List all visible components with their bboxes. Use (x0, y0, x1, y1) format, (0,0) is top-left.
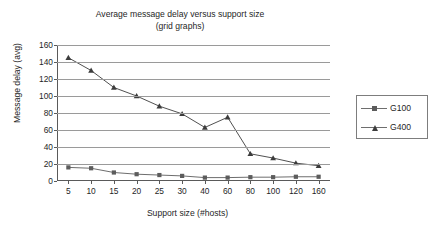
y-tick-mark (54, 79, 57, 80)
x-tick-mark (137, 181, 138, 184)
legend-marker-triangle-icon (361, 122, 387, 132)
legend-label-g100: G100 (390, 103, 411, 113)
x-tick-mark (228, 181, 229, 184)
gridline (57, 147, 330, 148)
y-tick-mark (54, 181, 57, 182)
y-tick-label: 160 (31, 40, 53, 50)
y-tick-mark (54, 113, 57, 114)
x-tick-mark (273, 181, 274, 184)
legend-item-g100[interactable]: G100 (361, 101, 411, 115)
chart-container: Average message delay versus support siz… (0, 0, 438, 242)
chart-title: Average message delay versus support siz… (0, 8, 360, 32)
y-tick-label: 20 (31, 159, 53, 169)
data-point-g100 (66, 165, 70, 169)
data-point-g100 (203, 176, 207, 180)
plot-area (57, 45, 330, 181)
data-point-g100 (180, 174, 184, 178)
y-tick-mark (54, 130, 57, 131)
x-tick-mark (114, 181, 115, 184)
y-tick-label: 60 (31, 125, 53, 135)
data-point-g100 (271, 175, 275, 179)
y-tick-label: 100 (31, 91, 53, 101)
gridline (57, 113, 330, 114)
x-tick-mark (159, 181, 160, 184)
x-tick-mark (91, 181, 92, 184)
gridline (57, 164, 330, 165)
data-point-g100 (157, 173, 161, 177)
x-tick-mark (296, 181, 297, 184)
data-point-g100 (89, 166, 93, 170)
data-point-g400 (202, 125, 208, 130)
x-tick-mark (319, 181, 320, 184)
gridline (57, 96, 330, 97)
data-point-g100 (294, 175, 298, 179)
x-tick-mark (205, 181, 206, 184)
data-point-g100 (226, 176, 230, 180)
data-point-g400 (247, 151, 253, 156)
series-line-g100 (68, 167, 318, 177)
x-tick-label: 160 (305, 186, 333, 196)
gridline (57, 45, 330, 46)
y-tick-label: 80 (31, 108, 53, 118)
x-axis-title: Support size (#hosts) (44, 208, 331, 218)
y-tick-label: 0 (31, 176, 53, 186)
y-tick-label: 40 (31, 142, 53, 152)
y-tick-label: 140 (31, 57, 53, 67)
data-point-g400 (88, 68, 94, 73)
data-point-g400 (65, 55, 71, 60)
y-tick-mark (54, 96, 57, 97)
chart-title-line1: Average message delay versus support siz… (0, 8, 360, 20)
data-point-g100 (112, 170, 116, 174)
chart-legend: G100 G400 (356, 95, 428, 139)
chart-subtitle: (grid graphs) (0, 20, 360, 32)
series-line-g400 (68, 58, 318, 166)
gridline (57, 79, 330, 80)
data-point-g400 (156, 103, 162, 108)
y-tick-label: 120 (31, 74, 53, 84)
data-point-g100 (248, 175, 252, 179)
legend-label-g400: G400 (390, 122, 411, 132)
data-point-g400 (111, 85, 117, 90)
gridline (57, 62, 330, 63)
y-tick-mark (54, 45, 57, 46)
data-point-g100 (317, 175, 321, 179)
y-axis-title: Message delay (avg) (12, 23, 22, 143)
y-tick-mark (54, 147, 57, 148)
x-tick-mark (182, 181, 183, 184)
y-tick-mark (54, 62, 57, 63)
legend-marker-square-icon (361, 103, 387, 113)
data-point-g400 (225, 114, 231, 119)
x-tick-mark (68, 181, 69, 184)
x-tick-mark (250, 181, 251, 184)
data-point-g100 (135, 172, 139, 176)
y-tick-mark (54, 164, 57, 165)
legend-item-g400[interactable]: G400 (361, 120, 411, 134)
gridline (57, 130, 330, 131)
